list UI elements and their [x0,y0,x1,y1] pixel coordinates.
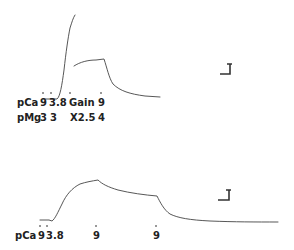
bottom-trace [40,180,278,222]
top-row2-value-4: 4 [98,112,105,123]
panel-bottom: pCa 9 3.8 9 9 [15,180,278,241]
bottom-row1-value-3: 9 [93,230,100,241]
top-row1-label: pCa [17,97,38,108]
bottom-row1-value-4: 9 [153,230,160,241]
figure-canvas: pCa 9 3.8 Gain 9 pMg 3 3 X2.5 4 pCa 9 3.… [0,0,294,250]
top-row1-value-4: 9 [98,97,105,108]
top-row1-value-2: 3.8 [49,97,67,108]
top-row2-value-3: X2.5 [70,112,95,123]
top-scale-bar [220,64,232,74]
top-row1-value-3: Gain [69,97,95,108]
bottom-scale-bar [218,190,231,200]
panel-top: pCa 9 3.8 Gain 9 pMg 3 3 X2.5 4 [17,15,232,123]
bottom-row1-label: pCa [15,230,36,241]
bottom-row1-value-1: 9 [38,230,45,241]
top-row2-value-2: 3 [50,112,57,123]
top-trace-gain [74,59,160,97]
top-row2-value-1: 3 [40,112,47,123]
top-row1-value-1: 9 [40,97,47,108]
top-trace-initial [43,15,75,99]
top-row2-label: pMg [17,112,41,123]
bottom-row1-value-2: 3.8 [46,230,64,241]
